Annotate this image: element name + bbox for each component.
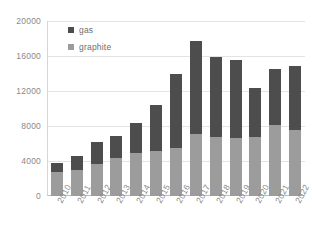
bar-segment-gas[interactable] bbox=[249, 88, 261, 137]
bar-segment-gas[interactable] bbox=[91, 142, 103, 164]
bar-stack[interactable] bbox=[289, 66, 301, 196]
legend-swatch-graphite-icon bbox=[68, 44, 74, 50]
legend-label-graphite: graphite bbox=[79, 42, 111, 52]
legend-item-graphite[interactable]: graphite bbox=[68, 42, 111, 52]
bar-stack[interactable] bbox=[269, 69, 281, 196]
bar-stack[interactable] bbox=[249, 88, 261, 196]
bar-stack[interactable] bbox=[150, 105, 162, 196]
bar-segment-gas[interactable] bbox=[130, 123, 142, 153]
bar-segment-gas[interactable] bbox=[51, 163, 63, 173]
bar-segment-gas[interactable] bbox=[269, 69, 281, 125]
bar-segment-gas[interactable] bbox=[230, 60, 242, 139]
y-axis-tick-label: 12000 bbox=[0, 86, 41, 96]
y-axis-tick-label: 20000 bbox=[0, 16, 41, 26]
bar-segment-gas[interactable] bbox=[71, 156, 83, 170]
bar-stack[interactable] bbox=[210, 57, 222, 196]
y-axis-tick-label: 0 bbox=[0, 191, 41, 201]
bar-stack[interactable] bbox=[230, 60, 242, 197]
y-axis-tick-label: 16000 bbox=[0, 51, 41, 61]
bar-segment-gas[interactable] bbox=[150, 105, 162, 151]
y-axis-tick-label: 4000 bbox=[0, 156, 41, 166]
bar-segment-gas[interactable] bbox=[110, 136, 122, 158]
bar-segment-gas[interactable] bbox=[190, 41, 202, 134]
bar-chart: 040008000120001600020000 201020112012201… bbox=[0, 0, 312, 231]
bar-stack[interactable] bbox=[190, 41, 202, 196]
legend-swatch-gas-icon bbox=[68, 27, 74, 33]
bar-segment-gas[interactable] bbox=[170, 74, 182, 148]
bar-segment-gas[interactable] bbox=[210, 57, 222, 137]
bar-stack[interactable] bbox=[170, 74, 182, 196]
y-axis-tick-label: 8000 bbox=[0, 121, 41, 131]
legend-item-gas[interactable]: gas bbox=[68, 25, 111, 35]
legend-label-gas: gas bbox=[79, 25, 93, 35]
bar-segment-gas[interactable] bbox=[289, 66, 301, 131]
chart-legend: gas graphite bbox=[68, 21, 111, 52]
